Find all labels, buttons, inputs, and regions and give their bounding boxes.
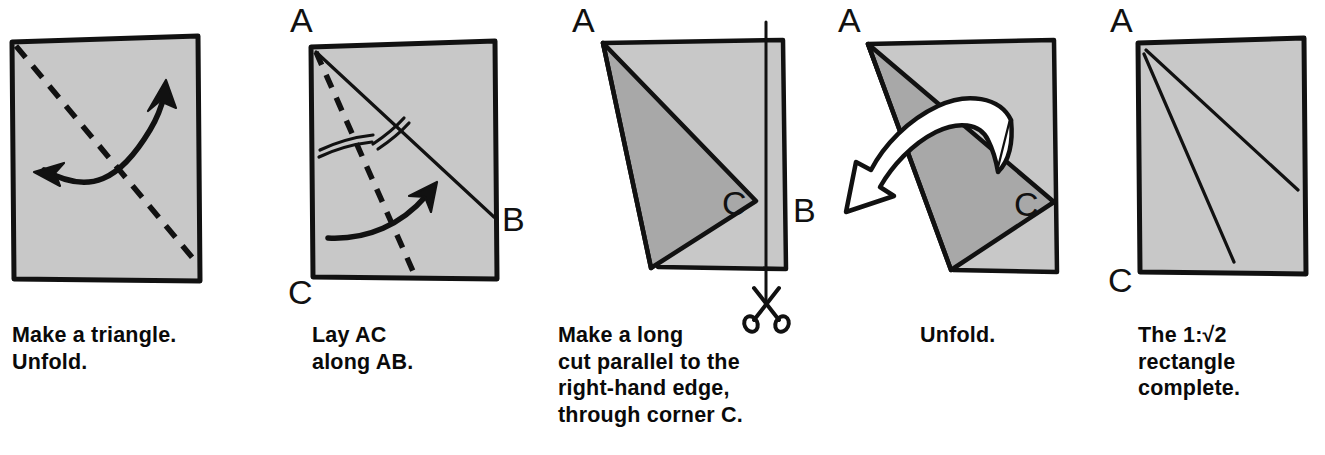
panel-3-caption: Make a long cut parallel to the right-ha… — [558, 322, 838, 428]
panel-5-caption: The 1:√2 rectangle complete. — [1138, 322, 1323, 402]
label-A: A — [1110, 1, 1133, 39]
paper-sheet — [1138, 38, 1306, 274]
panel-2-caption: Lay AC along AB. — [312, 322, 542, 375]
panel-step-3: A C B Make a long cut parallel to the ri… — [548, 0, 838, 455]
label-C: C — [1108, 261, 1133, 299]
panel-2-figure: A B C — [268, 0, 553, 310]
label-C: C — [1014, 185, 1039, 223]
label-C: C — [288, 273, 313, 311]
panel-1-figure — [0, 0, 270, 310]
panel-5-figure: A C — [1086, 0, 1325, 310]
panel-4-caption: Unfold. — [920, 322, 1090, 349]
label-B: B — [502, 200, 525, 238]
label-A: A — [290, 1, 313, 39]
panel-3-figure: A C B — [548, 0, 838, 330]
panel-step-5: A C The 1:√2 rectangle complete. — [1086, 0, 1325, 455]
label-B: B — [793, 191, 816, 229]
panel-step-2: A B C Lay AC along AB. — [268, 0, 553, 455]
label-C: C — [722, 184, 747, 222]
origami-instruction-diagram: Make a triangle. Unfold. A B — [0, 0, 1325, 455]
panel-step-1: Make a triangle. Unfold. — [0, 0, 270, 455]
panel-step-4: A C Unfold. — [828, 0, 1093, 455]
label-A: A — [572, 1, 595, 39]
paper-sheet — [311, 41, 497, 279]
panel-4-figure: A C — [828, 0, 1093, 310]
panel-1-caption: Make a triangle. Unfold. — [12, 322, 262, 375]
label-A: A — [838, 1, 861, 39]
